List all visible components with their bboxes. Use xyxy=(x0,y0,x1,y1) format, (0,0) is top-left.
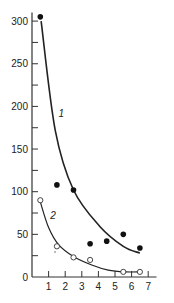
x-tick-label: 5 xyxy=(112,281,118,292)
scatter-chart: 0501001502002503001234567 12 xyxy=(0,0,174,303)
y-tick-label: 200 xyxy=(11,101,28,112)
curve-labels: 12 xyxy=(49,108,64,221)
y-tick-label: 300 xyxy=(11,16,28,27)
filled-data-point xyxy=(137,245,143,251)
fit-curves xyxy=(40,21,141,272)
open-data-point xyxy=(38,198,43,203)
open-data-point xyxy=(137,269,142,274)
y-tick-label: 0 xyxy=(22,272,28,283)
fit-curve-1 xyxy=(41,21,140,253)
x-tick-label: 2 xyxy=(62,281,68,292)
curve-label-2: 2 xyxy=(49,210,56,221)
open-data-point xyxy=(54,244,59,249)
y-tick-label: 250 xyxy=(11,58,28,69)
filled-data-point xyxy=(54,182,60,188)
filled-data-point xyxy=(71,187,77,193)
x-tick-label: 4 xyxy=(96,281,102,292)
data-points xyxy=(38,14,143,274)
x-tick-label: 1 xyxy=(46,281,52,292)
filled-data-point xyxy=(87,241,93,247)
y-tick-label: 50 xyxy=(17,229,29,240)
y-tick-label: 150 xyxy=(11,144,28,155)
open-data-point xyxy=(88,257,93,262)
curve-label-1: 1 xyxy=(59,108,65,119)
x-tick-label: 7 xyxy=(145,281,151,292)
x-tick-label: 3 xyxy=(79,281,85,292)
open-data-point xyxy=(121,269,126,274)
filled-data-point xyxy=(38,14,44,20)
x-tick-label: 6 xyxy=(129,281,135,292)
filled-data-point xyxy=(121,232,127,238)
axes: 0501001502002503001234567 xyxy=(11,13,156,292)
open-data-point xyxy=(71,255,76,260)
y-tick-label: 100 xyxy=(11,186,28,197)
filled-data-point xyxy=(104,238,110,244)
